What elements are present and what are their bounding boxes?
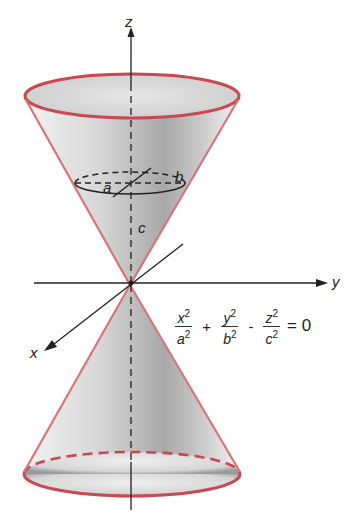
z-axis-label: z — [125, 14, 133, 29]
plus-sign: + — [202, 318, 211, 335]
label-b: b — [175, 169, 183, 184]
x-axis-label: x — [30, 345, 38, 360]
equation-rhs: = 0 — [287, 316, 311, 336]
minus-sign: - — [248, 318, 253, 335]
y-axis — [34, 279, 328, 287]
y-axis-label: y — [332, 274, 340, 289]
cone-diagram — [0, 0, 362, 518]
cone-equation: x2 a2 + y2 b2 - z2 c2 = 0 — [172, 306, 318, 346]
fraction-x: x2 a2 — [175, 306, 192, 346]
apex — [129, 281, 134, 286]
fraction-z: z2 c2 — [263, 306, 280, 346]
label-a: a — [103, 180, 111, 195]
label-c: c — [138, 220, 146, 235]
fraction-y: y2 b2 — [221, 306, 238, 346]
upper-nappe — [25, 74, 239, 285]
